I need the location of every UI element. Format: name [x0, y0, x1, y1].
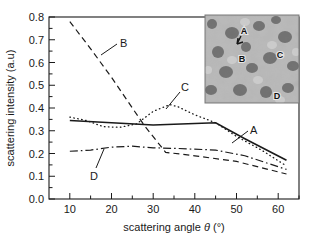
y-tick-label: 0.2	[29, 148, 44, 160]
micrograph-inset: A B C D	[204, 15, 300, 104]
y-axis-ticks	[49, 17, 55, 199]
leader-line-B	[101, 44, 117, 55]
x-axis-title-unit: (°)	[210, 221, 225, 233]
y-tick-label: 0.5	[29, 79, 44, 91]
figure-container: 0.0 0.1 0.2 0.3 0.4 0.5 0.6 0.7 0.8 10 2…	[0, 0, 314, 241]
series-label-A: A	[250, 124, 258, 136]
y-tick-labels: 0.0 0.1 0.2 0.3 0.4 0.5 0.6 0.7 0.8	[29, 11, 44, 205]
x-axis-title-prefix: scattering angle	[123, 221, 204, 233]
y-tick-label: 0.3	[29, 125, 44, 137]
x-tick-label: 60	[272, 203, 284, 215]
x-tick-label: 20	[105, 203, 117, 215]
series-label-D: D	[90, 170, 98, 182]
x-tick-label: 50	[230, 203, 242, 215]
x-axis-title: scattering angle θ (°)	[123, 221, 224, 233]
inset-label-d: D	[274, 91, 281, 101]
y-tick-label: 0.4	[29, 102, 44, 114]
x-tick-labels: 10 20 30 40 50 60	[64, 203, 285, 215]
x-tick-label: 40	[189, 203, 201, 215]
scattering-intensity-chart: 0.0 0.1 0.2 0.3 0.4 0.5 0.6 0.7 0.8 10 2…	[0, 0, 314, 241]
y-tick-label: 0.8	[29, 11, 44, 23]
inset-label-a: A	[241, 26, 248, 36]
y-axis-title: scattering intensity (a.u)	[4, 50, 16, 167]
series-label-C: C	[181, 81, 189, 93]
inset-label-b: B	[239, 54, 246, 64]
inset-label-c: C	[277, 50, 284, 60]
x-tick-label: 10	[64, 203, 76, 215]
y-tick-label: 0.7	[29, 34, 44, 46]
y-tick-label: 0.0	[29, 193, 44, 205]
x-tick-label: 30	[147, 203, 159, 215]
y-tick-label: 0.6	[29, 57, 44, 69]
y-tick-label: 0.1	[29, 170, 44, 182]
leader-line-D	[96, 149, 104, 168]
series-label-B: B	[120, 37, 127, 49]
inset-texture	[204, 15, 300, 104]
x-axis-ticks	[70, 193, 299, 199]
